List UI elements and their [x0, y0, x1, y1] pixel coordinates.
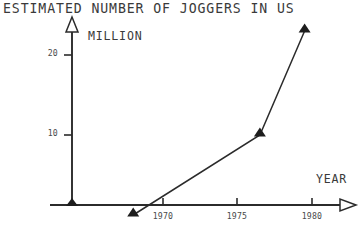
origin-marker-triangle [66, 198, 78, 206]
data-point-marker [299, 24, 311, 33]
x-axis-arrowhead-icon [340, 199, 356, 211]
y-axis-arrowhead-icon [66, 17, 78, 32]
chart-plot-area [0, 0, 361, 231]
data-point-marker [254, 128, 266, 137]
data-series-line [133, 31, 304, 215]
chart-container: ESTIMATED NUMBER OF JOGGERS IN US MILLIO… [0, 0, 361, 231]
